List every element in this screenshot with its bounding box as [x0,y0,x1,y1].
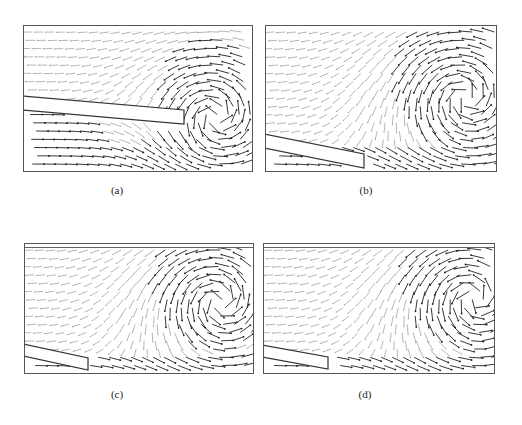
caption-b: (b) [346,184,386,196]
vector-field-panel-b [265,25,497,172]
vector-field-panel-c [24,243,254,374]
caption-c: (c) [97,388,137,400]
top-wall [264,244,494,248]
vector-field-panel-a [23,25,253,172]
inclined-plate [264,345,328,369]
caption-a: (a) [97,184,137,196]
vector-field-panel-d [263,243,495,374]
caption-d: (d) [345,388,385,400]
top-wall [25,244,253,248]
inclined-plate [266,134,364,168]
